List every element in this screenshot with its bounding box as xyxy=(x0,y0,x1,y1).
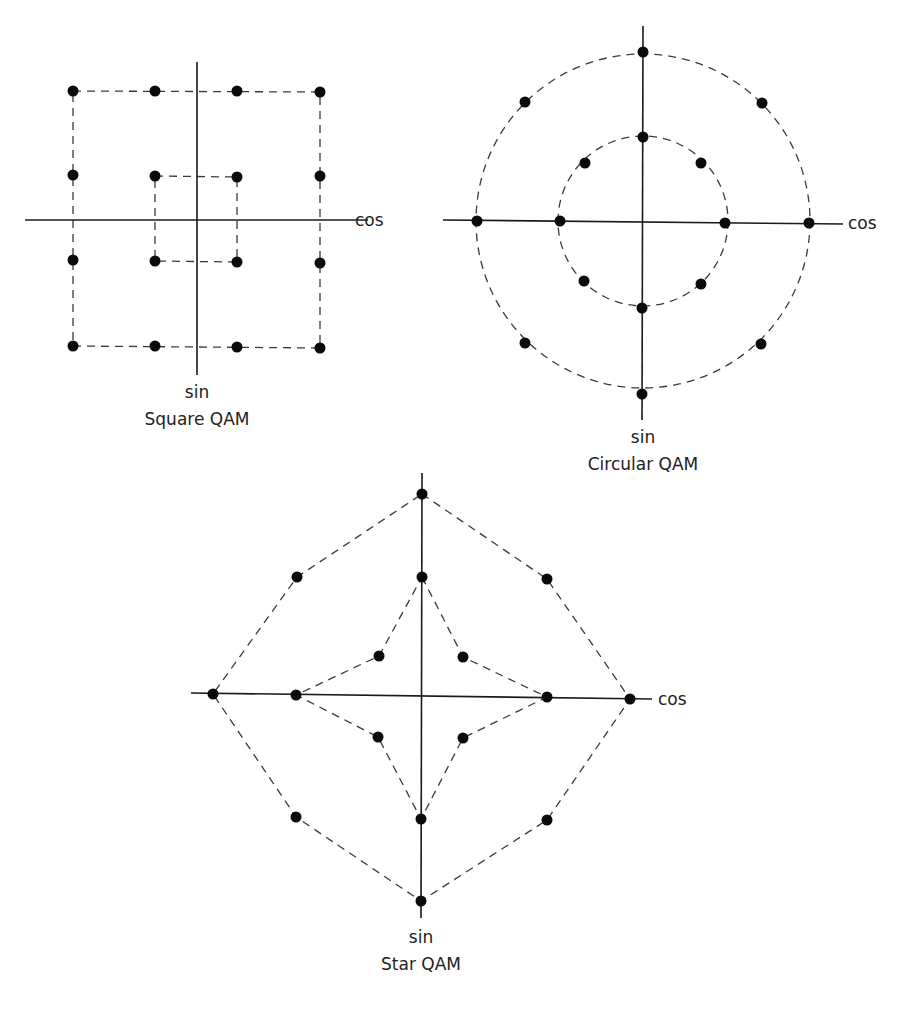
constellation-point xyxy=(150,341,161,352)
constellation-point xyxy=(315,258,326,269)
constellation-point xyxy=(373,732,384,743)
constellation-point xyxy=(696,279,707,290)
star-qam-title: Star QAM xyxy=(381,954,461,974)
constellation-point xyxy=(232,172,243,183)
constellation-point xyxy=(68,170,79,181)
constellation-point xyxy=(542,574,553,585)
square-cos-label: cos xyxy=(355,210,384,230)
constellation-point xyxy=(757,98,768,109)
constellation-point xyxy=(458,733,469,744)
circular-sin-axis xyxy=(642,26,643,420)
constellation-point xyxy=(638,132,649,143)
constellation-point xyxy=(68,255,79,266)
constellation-point xyxy=(315,343,326,354)
circular-qam-diagram xyxy=(443,26,843,420)
constellation-point xyxy=(625,694,636,705)
constellation-point xyxy=(637,303,648,314)
constellation-point xyxy=(520,97,531,108)
constellation-point xyxy=(756,339,767,350)
constellation-point xyxy=(416,896,427,907)
constellation-point xyxy=(580,158,591,169)
square-qam-diagram xyxy=(25,62,368,375)
constellation-point xyxy=(637,389,648,400)
constellation-point xyxy=(291,690,302,701)
constellation-point xyxy=(150,171,161,182)
constellation-point xyxy=(417,489,428,500)
constellation-point xyxy=(416,814,427,825)
circular-cos-label: cos xyxy=(848,213,877,233)
constellation-point xyxy=(374,651,385,662)
constellation-point xyxy=(68,341,79,352)
constellation-point xyxy=(542,815,553,826)
constellation-point xyxy=(638,47,649,58)
inner-dashed-box xyxy=(155,176,237,262)
square-qam-title: Square QAM xyxy=(145,409,250,429)
constellation-point xyxy=(315,171,326,182)
constellation-point xyxy=(68,86,79,97)
constellation-point xyxy=(315,87,326,98)
constellation-point xyxy=(292,572,303,583)
qam-constellation-diagrams: cos sin Square QAM cos sin Circular QAM … xyxy=(0,0,910,1018)
constellation-point xyxy=(555,216,566,227)
constellation-point xyxy=(232,86,243,97)
circular-qam-title: Circular QAM xyxy=(588,454,699,474)
circular-sin-label: sin xyxy=(631,427,655,447)
constellation-point xyxy=(458,652,469,663)
square-sin-label: sin xyxy=(185,382,209,402)
constellation-point xyxy=(291,812,302,823)
constellation-point xyxy=(417,572,428,583)
constellation-point xyxy=(696,158,707,169)
constellation-point xyxy=(520,338,531,349)
constellation-point xyxy=(150,86,161,97)
constellation-point xyxy=(579,276,590,287)
star-sin-axis xyxy=(421,473,422,918)
constellation-point xyxy=(150,256,161,267)
constellation-point xyxy=(720,218,731,229)
constellation-point xyxy=(472,216,483,227)
star-sin-label: sin xyxy=(409,927,433,947)
constellation-point xyxy=(232,342,243,353)
constellation-point xyxy=(208,689,219,700)
constellation-point xyxy=(232,257,243,268)
constellation-point xyxy=(542,692,553,703)
constellation-point xyxy=(804,218,815,229)
star-cos-label: cos xyxy=(658,689,687,709)
star-qam-diagram xyxy=(191,473,652,918)
